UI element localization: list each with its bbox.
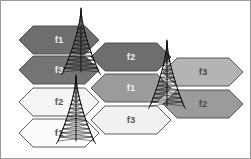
cell-label-f3-right: f3 [199, 66, 207, 77]
cell-label-f3-bottom-center: f3 [127, 114, 135, 125]
cell-label-f2-right: f2 [199, 98, 207, 109]
diagram-canvas: f1 f2 f3 f2 f3 f1 f2 f3 f1 [0, 0, 251, 159]
cell-label-f1-top-left: f1 [55, 34, 64, 45]
cell-label-f2-lower-left: f2 [55, 96, 63, 107]
frequency-reuse-figure: f1 f2 f3 f2 f3 f1 f2 f3 f1 [0, 0, 251, 159]
cell-label-f2-center-top: f2 [127, 51, 135, 62]
cell-label-f1-center: f1 [127, 82, 136, 93]
